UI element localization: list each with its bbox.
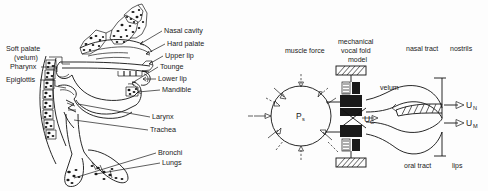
- figure-root: Soft palate (velum) Pharynx Epiglottis N…: [0, 0, 488, 191]
- lips-shape: [141, 71, 150, 85]
- anatomy-labels-right: Nasal cavity Hard palate Upper lip Toung…: [150, 26, 204, 167]
- vocal-fold-mechanical-model: [336, 66, 366, 167]
- label-hard-palate: Hard palate: [167, 39, 204, 48]
- leader-lines-right: [74, 31, 165, 178]
- label-mechanical: mechanical: [338, 38, 374, 45]
- symbol-UG-sub: G: [370, 119, 374, 125]
- symbol-UN-base: U: [466, 100, 472, 110]
- label-velum: (velum): [14, 53, 38, 62]
- right-model-panel: muscle force mechanical vocal fold model…: [244, 0, 488, 191]
- label-velum: velum: [380, 84, 399, 91]
- label-model: model: [348, 56, 368, 63]
- label-trachea: Trachea: [150, 125, 176, 134]
- symbol-subglottal-pressure: P s: [296, 111, 305, 122]
- label-upper-lip: Upper lip: [165, 51, 194, 60]
- symbol-P-sub: s: [302, 116, 305, 122]
- hard-palate-region: [60, 61, 153, 76]
- pharynx-vertebral-column: [40, 56, 66, 164]
- symbol-nasal-flow: U N: [466, 100, 477, 111]
- skull-bone-shading: [80, 4, 147, 54]
- oral-tract-outline: [366, 119, 442, 154]
- output-flow-arrows: [444, 102, 464, 127]
- symbol-UM-sub: M: [473, 123, 478, 129]
- bronchi-lungs: [65, 150, 128, 187]
- label-oral-tract: oral tract: [404, 162, 431, 169]
- label-pharynx: Pharynx: [10, 62, 37, 71]
- mechanical-model-drawing: muscle force mechanical vocal fold model…: [244, 0, 488, 191]
- symbol-UN-sub: N: [473, 105, 477, 111]
- nostrils-lips-walls: [434, 78, 446, 156]
- label-lips: lips: [452, 162, 463, 170]
- label-epiglottis: Epiglottis: [6, 75, 36, 84]
- symbol-UM-base: U: [466, 118, 472, 128]
- velum-flap: [392, 104, 442, 116]
- label-tounge: Tounge: [160, 62, 184, 71]
- label-nostrils: nostrils: [450, 45, 473, 52]
- label-larynx: Larynx: [152, 112, 174, 121]
- label-muscle-force: muscle force: [285, 47, 325, 54]
- label-nasal-tract: nasal tract: [406, 45, 438, 52]
- anatomy-labels-left: Soft palate (velum) Pharynx Epiglottis: [6, 44, 40, 84]
- label-mandible: Mandible: [162, 85, 191, 94]
- label-bronchi: Bronchi: [158, 148, 183, 157]
- label-nasal-cavity: Nasal cavity: [164, 26, 203, 35]
- label-vocal-fold: vocal fold: [341, 47, 371, 54]
- symbol-oral-flow: U M: [466, 118, 478, 129]
- model-top-labels: muscle force mechanical vocal fold model…: [285, 38, 473, 63]
- anatomy-drawing: Soft palate (velum) Pharynx Epiglottis N…: [0, 0, 244, 191]
- label-soft-palate: Soft palate: [6, 44, 40, 53]
- label-lower-lip: Lower lip: [158, 74, 187, 83]
- label-lungs: Lungs: [162, 158, 182, 167]
- left-anatomy-panel: Soft palate (velum) Pharynx Epiglottis N…: [0, 0, 244, 191]
- tongue-body: [72, 75, 138, 118]
- soft-palate-velum: [56, 62, 72, 79]
